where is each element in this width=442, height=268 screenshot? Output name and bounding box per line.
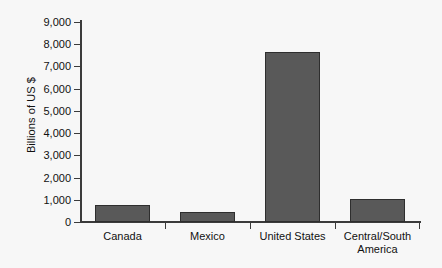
y-axis-title: Billions of US $ bbox=[24, 15, 38, 215]
y-tick-label-5: 5,000 bbox=[43, 105, 71, 117]
x-tick-mark-4 bbox=[419, 222, 420, 229]
y-tick-label-3: 3,000 bbox=[43, 149, 71, 161]
y-tick-mark-7 bbox=[74, 66, 80, 67]
y-tick-label-4: 4,000 bbox=[43, 127, 71, 139]
y-tick-label-1: 1,000 bbox=[43, 194, 71, 206]
y-tick-mark-5 bbox=[74, 111, 80, 112]
y-tick-mark-3 bbox=[74, 155, 80, 156]
bar-chart: Billions of US $ 0 1,000 2,000 3,000 4,0… bbox=[0, 0, 442, 268]
y-tick-label-9: 9,000 bbox=[43, 16, 71, 28]
bar-mexico bbox=[180, 212, 235, 222]
x-tick-mark-2 bbox=[250, 222, 251, 229]
x-label-central-south-america-line1: Central/South bbox=[344, 230, 411, 242]
plot-area: 0 1,000 2,000 3,000 4,000 5,000 6,000 7 bbox=[80, 22, 420, 222]
bar-united-states bbox=[265, 52, 320, 222]
y-tick-mark-8 bbox=[74, 44, 80, 45]
bar-canada bbox=[95, 205, 150, 222]
y-tick-mark-4 bbox=[74, 133, 80, 134]
bar-central-south-america bbox=[350, 199, 405, 222]
y-tick-mark-0 bbox=[74, 222, 80, 223]
x-label-central-south-america-line2: America bbox=[357, 243, 397, 255]
y-tick-mark-9 bbox=[74, 22, 80, 23]
y-tick-label-2: 2,000 bbox=[43, 172, 71, 184]
x-tick-mark-3 bbox=[335, 222, 336, 229]
x-tick-mark-1 bbox=[165, 222, 166, 229]
y-tick-mark-1 bbox=[74, 200, 80, 201]
y-tick-mark-2 bbox=[74, 178, 80, 179]
y-tick-label-0: 0 bbox=[65, 216, 71, 228]
y-tick-label-7: 7,000 bbox=[43, 60, 71, 72]
x-label-canada: Canada bbox=[80, 230, 165, 243]
y-tick-label-6: 6,000 bbox=[43, 83, 71, 95]
y-tick-label-8: 8,000 bbox=[43, 38, 71, 50]
x-label-mexico: Mexico bbox=[165, 230, 250, 243]
x-label-central-south-america: Central/South America bbox=[335, 230, 420, 256]
y-tick-mark-6 bbox=[74, 89, 80, 90]
x-label-united-states: United States bbox=[250, 230, 335, 243]
